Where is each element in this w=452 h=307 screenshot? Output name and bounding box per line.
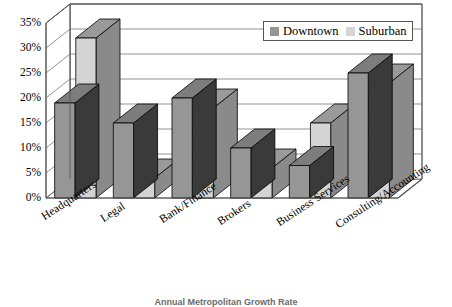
bar-front-face bbox=[55, 103, 75, 198]
bar-front-face bbox=[348, 73, 368, 198]
legend-label-suburban: Suburban bbox=[359, 25, 407, 38]
bar-front-face bbox=[289, 166, 309, 199]
bar-consulting-accounting-downtown bbox=[348, 54, 392, 198]
legend-swatch-suburban-icon bbox=[346, 27, 355, 36]
bar-legal-downtown bbox=[113, 104, 157, 198]
legend-entry-downtown: Downtown bbox=[270, 25, 339, 38]
chart-legend: DowntownSuburban bbox=[263, 21, 413, 41]
bar-front-face bbox=[231, 148, 251, 198]
bar-side-face bbox=[192, 79, 216, 198]
legend-swatch-downtown-icon bbox=[270, 27, 279, 36]
chart-caption: Annual Metropolitan Growth Rate bbox=[0, 297, 452, 307]
bar-front-face bbox=[172, 98, 192, 198]
bar-front-face bbox=[113, 123, 133, 198]
legend-entry-suburban: Suburban bbox=[346, 25, 407, 38]
legend-label-downtown: Downtown bbox=[283, 25, 339, 38]
bar-side-face bbox=[368, 54, 392, 198]
